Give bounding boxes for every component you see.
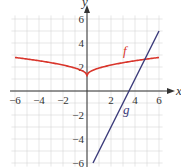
svg-text:−4: −4	[33, 94, 45, 106]
svg-text:−6: −6	[9, 94, 21, 106]
function-graph: x y −6−4−2246 642−2−4−6 f g	[0, 0, 181, 167]
svg-text:6: 6	[156, 94, 162, 106]
y-axis-label: y	[80, 0, 88, 9]
svg-text:6: 6	[79, 13, 85, 25]
axes	[10, 5, 175, 167]
label-g: g	[123, 102, 130, 117]
x-tick-labels: −6−4−2246	[9, 94, 162, 106]
label-f: f	[123, 43, 129, 58]
svg-text:−4: −4	[72, 133, 84, 145]
x-axis-arrow-icon	[167, 88, 175, 94]
svg-text:−6: −6	[72, 157, 84, 167]
svg-text:−2: −2	[72, 109, 84, 121]
svg-text:2: 2	[108, 94, 114, 106]
svg-text:−2: −2	[57, 94, 69, 106]
svg-text:4: 4	[79, 37, 85, 49]
x-axis-label: x	[175, 83, 181, 98]
svg-text:4: 4	[132, 94, 138, 106]
y-tick-labels: 642−2−4−6	[72, 13, 84, 167]
